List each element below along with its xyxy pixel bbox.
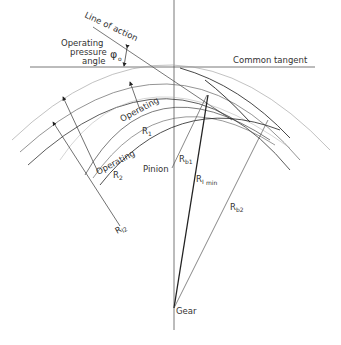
- gear-label: Gear: [176, 306, 197, 316]
- operating-r1-sub: 1: [148, 130, 152, 137]
- pressure-angle-label-3: angle: [82, 56, 106, 66]
- rimin-sub: I: [202, 178, 204, 185]
- line-of-action: [93, 27, 232, 120]
- gear-geometry-diagram: Line of action Operating pressure angle …: [0, 0, 341, 345]
- rb2-sub: b2: [236, 206, 244, 213]
- common-tangent-label: Common tangent: [233, 55, 308, 65]
- pinion-label: Pinion: [143, 164, 169, 174]
- phi-subscript: o: [118, 55, 122, 62]
- ri2-arrow: [53, 122, 120, 226]
- gear-base-arc: [28, 99, 290, 170]
- operating-r2-sub: 2: [119, 174, 123, 181]
- pressure-angle-arrow: [124, 48, 127, 66]
- rb1-sub: b1: [185, 158, 193, 165]
- pinion-arc-2: [93, 117, 275, 178]
- rb2-line: [174, 120, 268, 308]
- rimin-sub2: min: [206, 179, 218, 186]
- phi-symbol: φ: [110, 48, 117, 61]
- rimin-line: [174, 95, 208, 308]
- operating-r2-arrow: [63, 97, 98, 172]
